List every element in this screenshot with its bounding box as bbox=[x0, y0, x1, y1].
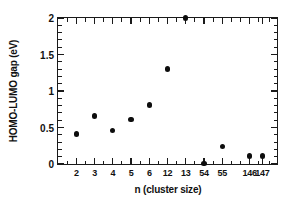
y-axis-tick-label: 1.5 bbox=[40, 49, 54, 60]
data-point bbox=[92, 113, 97, 118]
x-axis-tick bbox=[94, 158, 95, 164]
y-axis-minor-tick-right bbox=[274, 112, 278, 113]
y-axis-tick-right bbox=[271, 163, 277, 164]
y-axis-minor-tick bbox=[58, 69, 62, 70]
y-axis-tick-right bbox=[271, 127, 277, 128]
x-axis-minor-tick-top bbox=[103, 18, 104, 22]
x-axis-minor-tick bbox=[140, 161, 141, 165]
x-axis-tick bbox=[130, 158, 131, 164]
y-axis-minor-tick-right bbox=[274, 105, 278, 106]
y-axis-minor-tick-right bbox=[274, 120, 278, 121]
x-axis-tick-label: 5 bbox=[129, 168, 134, 178]
x-axis-minor-tick bbox=[194, 161, 195, 165]
x-axis-tick-top bbox=[76, 18, 77, 24]
x-axis-tick-label: 147 bbox=[255, 168, 269, 178]
y-axis-minor-tick bbox=[58, 61, 62, 62]
x-axis-minor-tick bbox=[258, 161, 259, 165]
data-point bbox=[147, 102, 152, 107]
x-axis-minor-tick-top bbox=[231, 18, 232, 22]
x-axis-minor-tick-top bbox=[67, 18, 68, 22]
x-axis-tick-label: 55 bbox=[218, 168, 227, 178]
y-axis-minor-tick bbox=[58, 76, 62, 77]
chart-figure: HOMO-LUMO gap (eV) 00.511.52234561213545… bbox=[0, 0, 293, 204]
y-axis-minor-tick bbox=[58, 32, 62, 33]
plot-area: 00.511.522345612135455146147 bbox=[57, 17, 278, 165]
x-axis-minor-tick bbox=[85, 161, 86, 165]
x-axis-minor-tick bbox=[176, 161, 177, 165]
x-axis-tick-top bbox=[222, 18, 223, 24]
y-axis-minor-tick bbox=[58, 142, 62, 143]
y-axis-tick-right bbox=[271, 17, 277, 18]
y-axis-minor-tick bbox=[58, 25, 62, 26]
x-axis-tick bbox=[222, 158, 223, 164]
data-point bbox=[260, 153, 265, 158]
y-axis-minor-tick-right bbox=[274, 134, 278, 135]
y-axis-minor-tick bbox=[58, 134, 62, 135]
y-axis-minor-tick bbox=[58, 39, 62, 40]
x-axis-tick bbox=[167, 158, 168, 164]
x-axis-tick-label: 6 bbox=[147, 168, 152, 178]
data-point bbox=[183, 15, 188, 20]
x-axis-tick-label: 2 bbox=[74, 168, 79, 178]
x-axis-tick-label: 12 bbox=[163, 168, 172, 178]
y-axis-minor-tick-right bbox=[274, 98, 278, 99]
x-axis-tick-top bbox=[94, 18, 95, 24]
x-axis-tick-top bbox=[249, 18, 250, 24]
y-axis-tick-label: 1 bbox=[48, 86, 54, 97]
x-axis-tick bbox=[185, 158, 186, 164]
y-axis-minor-tick bbox=[58, 156, 62, 157]
x-axis-tick-top bbox=[262, 18, 263, 24]
y-axis-tick bbox=[58, 163, 64, 164]
x-axis-minor-tick-top bbox=[85, 18, 86, 22]
x-axis-minor-tick bbox=[158, 161, 159, 165]
x-axis-minor-tick bbox=[67, 161, 68, 165]
x-axis-tick-top bbox=[149, 18, 150, 24]
y-axis-minor-tick-right bbox=[274, 69, 278, 70]
y-axis-minor-tick bbox=[58, 149, 62, 150]
x-axis-minor-tick-top bbox=[121, 18, 122, 22]
y-axis-minor-tick-right bbox=[274, 32, 278, 33]
x-axis-tick-label: 3 bbox=[92, 168, 97, 178]
y-axis-tick-right bbox=[271, 54, 277, 55]
y-axis-tick bbox=[58, 17, 64, 18]
x-axis-tick-label: 4 bbox=[110, 168, 115, 178]
y-axis-minor-tick-right bbox=[274, 142, 278, 143]
y-axis-minor-tick bbox=[58, 83, 62, 84]
y-axis-minor-tick-right bbox=[274, 39, 278, 40]
x-axis-minor-tick bbox=[269, 161, 270, 165]
x-axis-minor-tick-top bbox=[158, 18, 159, 22]
y-axis-minor-tick bbox=[58, 105, 62, 106]
x-axis-title: n (cluster size) bbox=[57, 184, 279, 195]
y-axis-minor-tick-right bbox=[274, 156, 278, 157]
y-axis-minor-tick-right bbox=[274, 61, 278, 62]
x-axis-tick bbox=[76, 158, 77, 164]
data-point bbox=[247, 153, 252, 158]
y-axis-minor-tick bbox=[58, 112, 62, 113]
x-axis-minor-tick-top bbox=[213, 18, 214, 22]
x-axis-tick-label: 54 bbox=[199, 168, 208, 178]
x-axis-tick-top bbox=[203, 18, 204, 24]
y-axis-minor-tick bbox=[58, 47, 62, 48]
x-axis-tick bbox=[249, 158, 250, 164]
x-axis-tick-label: 13 bbox=[181, 168, 190, 178]
data-point bbox=[74, 131, 79, 136]
y-axis-tick-label: 0 bbox=[48, 159, 54, 170]
y-axis-minor-tick bbox=[58, 120, 62, 121]
x-axis-tick bbox=[149, 158, 150, 164]
x-axis-minor-tick-top bbox=[258, 18, 259, 22]
y-axis-minor-tick-right bbox=[274, 149, 278, 150]
y-axis-tick bbox=[58, 54, 64, 55]
x-axis-minor-tick bbox=[121, 161, 122, 165]
x-axis-minor-tick bbox=[231, 161, 232, 165]
x-axis-tick bbox=[262, 158, 263, 164]
x-axis-tick-top bbox=[112, 18, 113, 24]
y-axis-tick bbox=[58, 127, 64, 128]
x-axis-minor-tick-top bbox=[176, 18, 177, 22]
y-axis-minor-tick-right bbox=[274, 25, 278, 26]
x-axis-minor-tick-top bbox=[140, 18, 141, 22]
x-axis-minor-tick-top bbox=[240, 18, 241, 22]
data-point bbox=[128, 117, 133, 122]
x-axis-minor-tick bbox=[240, 161, 241, 165]
data-point bbox=[165, 66, 170, 71]
x-axis-tick bbox=[112, 158, 113, 164]
